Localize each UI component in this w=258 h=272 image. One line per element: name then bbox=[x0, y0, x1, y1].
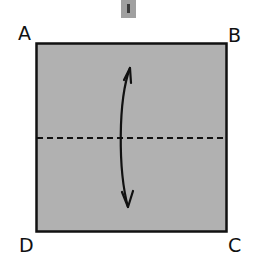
corner-label-b: B bbox=[228, 26, 241, 45]
corner-label-c: C bbox=[228, 236, 241, 255]
corner-label-a: A bbox=[18, 24, 31, 43]
fold-diagram bbox=[0, 0, 258, 272]
corner-label-d: D bbox=[19, 236, 34, 255]
